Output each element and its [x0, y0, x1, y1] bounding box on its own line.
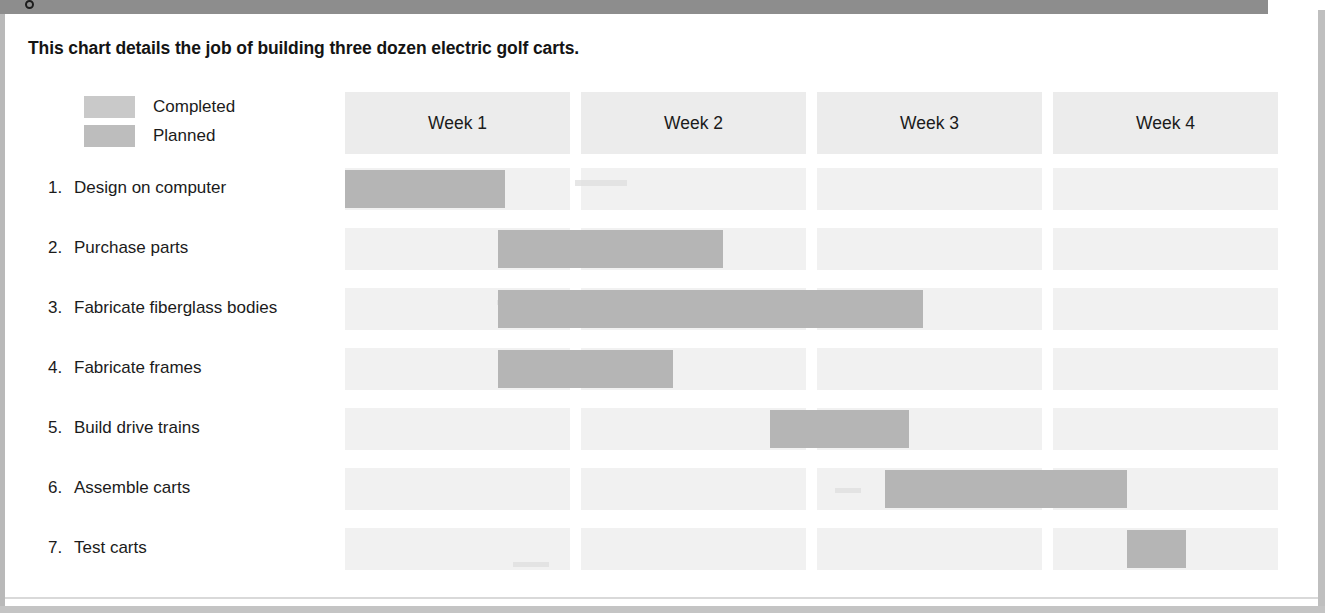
- grid-cell: [1053, 168, 1278, 210]
- week-header-2: Week 2: [581, 92, 806, 154]
- task-row-label-5: 5.Build drive trains: [48, 418, 200, 438]
- task-name: Fabricate fiberglass bodies: [74, 298, 277, 318]
- scan-artifact: [835, 488, 861, 493]
- task-number: 6.: [48, 478, 74, 498]
- page-bottom-rule: [0, 606, 1325, 613]
- task-number: 5.: [48, 418, 74, 438]
- figure-page: This chart details the job of building t…: [0, 0, 1325, 613]
- scan-artifact: [575, 180, 627, 186]
- task-row-label-3: 3.Fabricate fiberglass bodies: [48, 298, 277, 318]
- caption-clipped-glyph: [25, 0, 34, 9]
- week-header-label: Week 1: [428, 113, 487, 134]
- task-row-label-6: 6.Assemble carts: [48, 478, 190, 498]
- legend-label-completed: Completed: [153, 97, 235, 117]
- task-name: Fabricate frames: [74, 358, 202, 378]
- legend-item-completed: Completed: [84, 92, 235, 121]
- chart-legend: CompletedPlanned: [84, 92, 235, 150]
- grid-cell: [817, 348, 1042, 390]
- task-number: 2.: [48, 238, 74, 258]
- grid-cell: [345, 468, 570, 510]
- task-bar-1[interactable]: [345, 170, 505, 208]
- page-right-rule: [1318, 10, 1325, 613]
- week-header-3: Week 3: [817, 92, 1042, 154]
- scan-artifact: [513, 562, 549, 567]
- grid-cell: [581, 468, 806, 510]
- task-row-label-4: 4.Fabricate frames: [48, 358, 202, 378]
- page-inner-hairline: [5, 597, 1318, 599]
- grid-cell: [581, 168, 806, 210]
- grid-cell: [1053, 348, 1278, 390]
- chart-title: This chart details the job of building t…: [28, 38, 579, 59]
- gantt-grid: Week 1Week 2Week 3Week 4: [345, 92, 1277, 578]
- legend-item-planned: Planned: [84, 121, 235, 150]
- task-number: 3.: [48, 298, 74, 318]
- task-name: Test carts: [74, 538, 147, 558]
- grid-cell: [345, 408, 570, 450]
- page-top-notch: [1268, 0, 1325, 10]
- week-header-1: Week 1: [345, 92, 570, 154]
- week-header-4: Week 4: [1053, 92, 1278, 154]
- task-number: 4.: [48, 358, 74, 378]
- page-left-rule: [0, 14, 5, 613]
- task-row-label-7: 7.Test carts: [48, 538, 147, 558]
- task-number: 7.: [48, 538, 74, 558]
- task-bar-4[interactable]: [498, 350, 673, 388]
- page-top-rule: [0, 0, 1268, 14]
- legend-swatch-completed: [84, 96, 135, 118]
- task-bar-6[interactable]: [885, 470, 1128, 508]
- task-name: Design on computer: [74, 178, 226, 198]
- legend-label-planned: Planned: [153, 126, 215, 146]
- task-row-label-1: 1.Design on computer: [48, 178, 226, 198]
- grid-cell: [1053, 288, 1278, 330]
- grid-cell: [581, 528, 806, 570]
- grid-cell: [1053, 228, 1278, 270]
- week-header-label: Week 2: [664, 113, 723, 134]
- week-header-label: Week 4: [1136, 113, 1195, 134]
- grid-cell: [817, 168, 1042, 210]
- legend-swatch-planned: [84, 125, 135, 147]
- task-bar-5[interactable]: [770, 410, 909, 448]
- grid-cell: [1053, 408, 1278, 450]
- task-bar-7[interactable]: [1127, 530, 1186, 568]
- task-name: Purchase parts: [74, 238, 188, 258]
- week-header-label: Week 3: [900, 113, 959, 134]
- task-bar-2[interactable]: [498, 230, 723, 268]
- task-name: Build drive trains: [74, 418, 200, 438]
- grid-cell: [817, 228, 1042, 270]
- task-row-label-2: 2.Purchase parts: [48, 238, 188, 258]
- task-name: Assemble carts: [74, 478, 190, 498]
- task-bar-3[interactable]: [498, 290, 923, 328]
- grid-cell: [817, 528, 1042, 570]
- task-number: 1.: [48, 178, 74, 198]
